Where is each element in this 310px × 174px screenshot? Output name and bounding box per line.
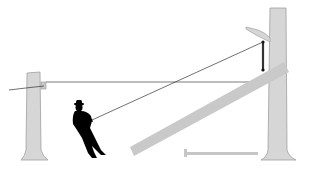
branch-hook <box>246 27 270 42</box>
person-silhouette <box>73 100 106 158</box>
ground-bar <box>184 149 258 157</box>
tree-felling-diagram <box>0 0 310 174</box>
pull-rope <box>92 42 263 120</box>
anchor-block <box>41 82 46 89</box>
leaning-log <box>130 62 289 156</box>
pulley <box>261 40 264 71</box>
